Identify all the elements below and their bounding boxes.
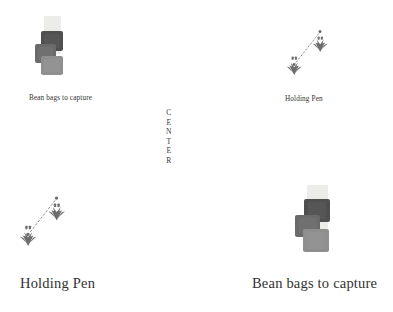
center-letter-n: N [166,127,172,137]
field-diagram-canvas: Bean bags to capture [0,0,393,312]
bean-bag-light [303,229,329,252]
bean-bag-light [41,56,63,75]
beanbag-cluster-bottom-right [290,185,350,260]
holding-pen-graphic-top-right [286,26,334,76]
label-bean-bags-top-left: Bean bags to capture [29,95,92,103]
holding-pen-graphic-bottom-left [18,192,73,247]
center-letter-c: C [166,108,171,118]
center-marker: C E N T E R [163,108,175,166]
label-holding-pen-top-right: Holding Pen [285,96,323,104]
label-bean-bags-bottom-right: Bean bags to capture [252,276,377,292]
center-letter-e1: E [167,118,172,128]
beanbag-cluster-top-left [30,16,78,78]
center-letter-e2: E [167,146,172,156]
label-holding-pen-bottom-left: Holding Pen [20,276,95,292]
center-letter-t: T [167,137,172,147]
center-letter-r: R [166,156,171,166]
